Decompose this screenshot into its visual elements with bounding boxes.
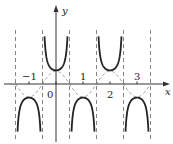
origin-label: 0 (47, 89, 53, 100)
tick-label-1: 1 (80, 71, 86, 82)
y-axis-label: y (61, 5, 68, 16)
sec-graph: y x 0 −1 1 2 3 (0, 0, 173, 144)
tick-label-2: 2 (107, 89, 113, 100)
y-axis-arrow-icon (54, 5, 59, 12)
tick-label-neg1: −1 (22, 71, 37, 82)
asymptotes (16, 30, 151, 140)
x-axis-label: x (165, 86, 171, 97)
tick-label-3: 3 (134, 71, 140, 82)
